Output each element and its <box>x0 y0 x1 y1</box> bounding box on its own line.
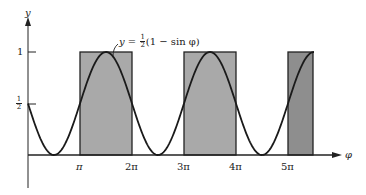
x-tick-label-pi: π <box>76 162 83 172</box>
x-tick-label-5pi: 5π <box>281 162 294 172</box>
curve-series <box>28 52 314 155</box>
chart: y φ 1 1 2 π 2π 3π 4π 5π y = 1 2 (1 − sin… <box>0 0 366 195</box>
x-tick-label-3pi: 3π <box>177 162 190 172</box>
formula-annotation: y = 1 2 (1 − sin φ) <box>119 34 200 49</box>
x-tick-label-4pi: 4π <box>229 162 242 172</box>
y-axis-label: y <box>25 8 31 18</box>
y-tick-label-half: 1 2 <box>16 96 22 111</box>
y-axis-arrow-icon <box>25 17 31 26</box>
y-tick-label-1: 1 <box>17 47 23 57</box>
formula-fraction: 1 2 <box>140 34 144 49</box>
x-axis-label: φ <box>345 150 352 160</box>
shaded-rect-2 <box>184 52 236 155</box>
shaded-rect-1 <box>80 52 132 155</box>
x-axis-arrow-icon <box>332 152 342 158</box>
x-tick-label-2pi: 2π <box>125 162 138 172</box>
